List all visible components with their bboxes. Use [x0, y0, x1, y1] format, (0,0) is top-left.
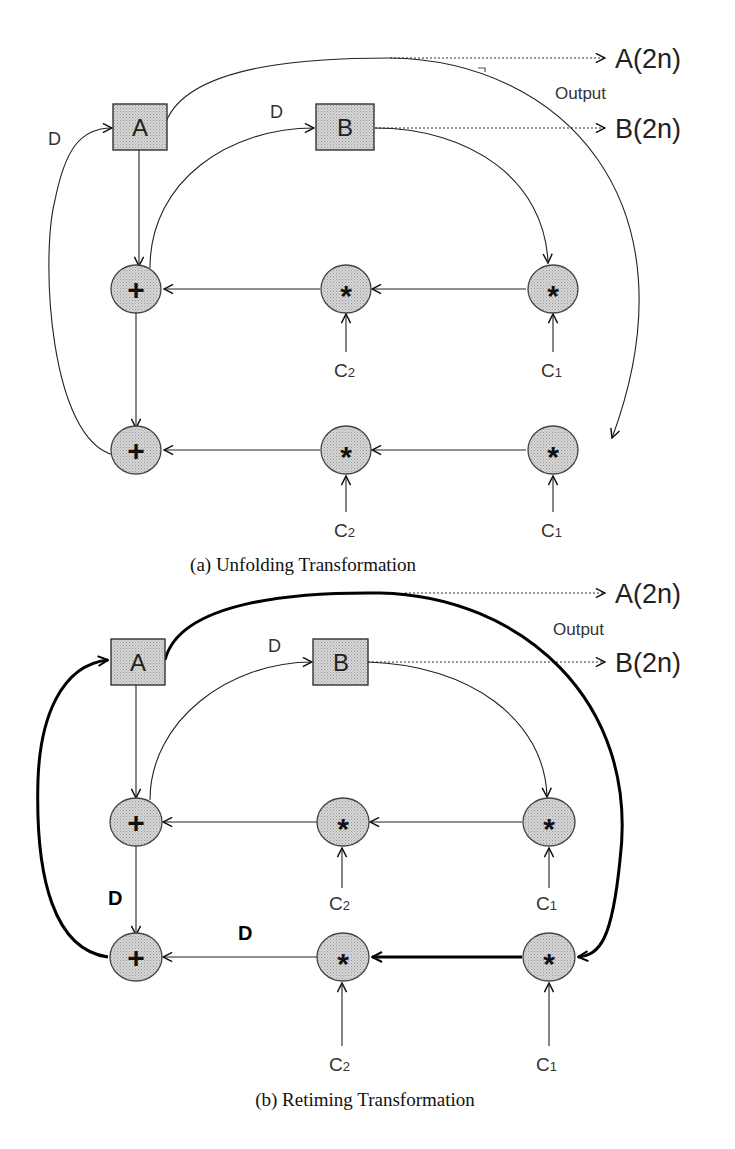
delay-label-vertical: D — [108, 887, 122, 909]
multiply-icon: * — [543, 812, 555, 845]
output-b-label: B(2n) — [615, 648, 681, 678]
multiply-icon: * — [337, 812, 349, 845]
delay-label-b: D — [268, 636, 281, 656]
delay-label-feedback: D — [48, 129, 61, 149]
register-b-label: B — [333, 649, 349, 676]
multiply-icon: * — [547, 440, 559, 473]
caption-b: (b) Retiming Transformation — [255, 1089, 475, 1111]
edge-b-to-mul-c1-top — [375, 128, 548, 263]
multiply-icon: * — [340, 440, 352, 473]
output-a-label: A(2n) — [615, 44, 681, 74]
output-label: Output — [553, 620, 604, 639]
panel-b-retiming: A(2n) Output B(2n) D D D A B — [38, 579, 681, 1111]
constant-c1-top: C1 — [541, 360, 562, 381]
edge-add2-to-a — [38, 660, 108, 957]
register-a-label: A — [130, 649, 146, 676]
edge-add1-to-b — [150, 662, 312, 800]
multiply-icon: * — [337, 947, 349, 980]
tick-mark — [478, 68, 485, 72]
panel-a-unfolding: A(2n) Output B(2n) D D A B — [48, 44, 681, 576]
constant-c1-top: C1 — [536, 893, 557, 914]
caption-a: (a) Unfolding Transformation — [190, 554, 416, 576]
constant-c1-bottom: C1 — [541, 520, 562, 541]
dataflow-diagram: A(2n) Output B(2n) D D A B — [0, 0, 735, 1149]
constant-c2-top: C2 — [329, 893, 350, 914]
plus-icon: + — [127, 273, 145, 306]
plus-icon: + — [127, 434, 145, 467]
constant-c1-bottom: C1 — [536, 1054, 557, 1075]
plus-icon: + — [127, 806, 145, 839]
register-a-label: A — [132, 114, 148, 141]
output-b-label: B(2n) — [615, 114, 681, 144]
edge-add2-to-a — [49, 128, 114, 455]
delay-label-horizontal: D — [238, 922, 252, 944]
multiply-icon: * — [547, 279, 559, 312]
output-label: Output — [555, 84, 606, 103]
constant-c2-bottom: C2 — [334, 520, 355, 541]
multiply-icon: * — [340, 279, 352, 312]
multiply-icon: * — [543, 947, 555, 980]
constant-c2-top: C2 — [334, 360, 355, 381]
edge-b-to-mul-c1-top — [368, 662, 547, 797]
plus-icon: + — [127, 941, 145, 974]
edge-add1-to-b — [150, 128, 314, 268]
delay-label-b: D — [270, 102, 283, 122]
constant-c2-bottom: C2 — [329, 1054, 350, 1075]
edge-a-to-mul-c1-bottom — [166, 58, 639, 438]
output-a-label: A(2n) — [615, 579, 681, 609]
register-b-label: B — [337, 114, 353, 141]
